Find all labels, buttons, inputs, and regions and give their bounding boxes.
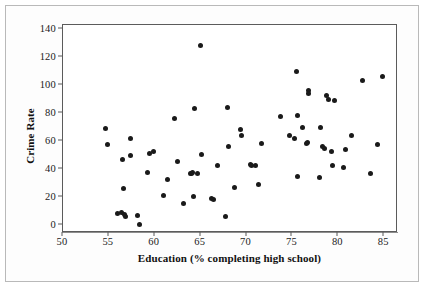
scatter-point (295, 174, 300, 179)
scatter-point (278, 114, 283, 119)
scatter-point (380, 74, 385, 79)
x-axis-tick-label: 60 (148, 236, 159, 247)
scatter-point (330, 163, 335, 168)
scatter-point (195, 171, 200, 176)
scatter-point (326, 97, 331, 102)
figure-scatter-crime-vs-education: Crime Rate 020406080100120140 5055606570… (0, 0, 426, 289)
scatter-point (135, 213, 140, 218)
x-axis-tick-label: 50 (57, 236, 68, 247)
scatter-point (198, 43, 203, 48)
scatter-point (256, 182, 261, 187)
y-axis-tick-label: 140 (40, 23, 56, 34)
x-axis-tick-label: 55 (102, 236, 113, 247)
scatter-point (329, 149, 334, 154)
y-axis-tick-label: 40 (45, 162, 56, 173)
scatter-point (103, 126, 108, 131)
scatter-points-layer (63, 25, 396, 231)
y-axis-tick-label: 120 (40, 51, 56, 62)
scatter-point (259, 141, 264, 146)
y-axis-tick-label: 80 (45, 106, 56, 117)
y-axis-tick-label: 20 (45, 190, 56, 201)
scatter-point (120, 157, 125, 162)
scatter-point (172, 116, 177, 121)
scatter-point (151, 149, 156, 154)
scatter-point (239, 133, 244, 138)
x-axis-tick-label: 65 (194, 236, 205, 247)
x-axis-tick-label: 80 (332, 236, 343, 247)
scatter-point (305, 140, 310, 145)
scatter-point (123, 214, 128, 219)
scatter-point (191, 194, 196, 199)
scatter-point (199, 152, 204, 157)
scatter-point (226, 144, 231, 149)
scatter-point (137, 222, 142, 227)
scatter-point (341, 165, 346, 170)
y-axis-tick-label: 60 (45, 134, 56, 145)
scatter-point (211, 197, 216, 202)
scatter-point (318, 125, 323, 130)
scatter-point (215, 163, 220, 168)
scatter-point (223, 214, 228, 219)
y-axis-tick-labels: 020406080100120140 (30, 24, 56, 232)
scatter-point (128, 153, 133, 158)
scatter-point (121, 186, 126, 191)
scatter-point (145, 170, 150, 175)
y-axis-label-container: Crime Rate (14, 24, 30, 232)
scatter-point (292, 136, 297, 141)
scatter-point (105, 142, 110, 147)
x-axis-label: Education (% completing high school) (62, 252, 397, 264)
x-axis-tick-label: 85 (378, 236, 389, 247)
x-axis-tick-label: 75 (286, 236, 297, 247)
scatter-point (294, 69, 299, 74)
scatter-point (360, 78, 365, 83)
scatter-point (225, 105, 230, 110)
scatter-point (322, 146, 327, 151)
scatter-point (238, 127, 243, 132)
scatter-point (349, 133, 354, 138)
scatter-point (232, 185, 237, 190)
scatter-point (165, 177, 170, 182)
x-axis-tick-labels: 5055606570758085 (62, 236, 397, 252)
scatter-point (317, 175, 322, 180)
y-axis-tick-label: 0 (51, 218, 56, 229)
scatter-point (332, 98, 337, 103)
scatter-point (192, 106, 197, 111)
scatter-point (161, 193, 166, 198)
scatter-point (175, 159, 180, 164)
scatter-point (295, 113, 300, 118)
x-axis-tick-label: 70 (240, 236, 251, 247)
scatter-point (343, 147, 348, 152)
y-axis-tick-label: 100 (40, 79, 56, 90)
scatter-point (128, 136, 133, 141)
plot-area (62, 24, 397, 232)
scatter-point (368, 171, 373, 176)
scatter-point (253, 163, 258, 168)
scatter-point (375, 142, 380, 147)
scatter-point (181, 201, 186, 206)
scatter-point (306, 91, 311, 96)
scatter-point (300, 125, 305, 130)
